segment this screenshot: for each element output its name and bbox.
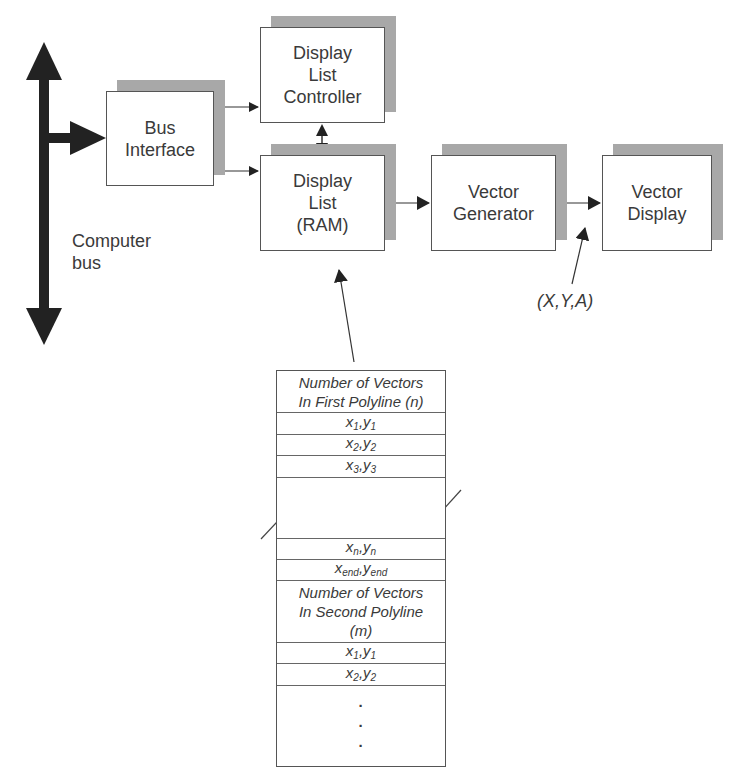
table-row: x3,y3 <box>277 456 445 478</box>
vector-generator-block: Vector Generator <box>431 155 556 251</box>
header-text: Number of Vectors In First Polyline (n) <box>298 373 423 411</box>
display-list-controller-block: Display List Controller <box>260 27 385 123</box>
computer-bus-label: Computer bus <box>72 230 151 274</box>
coord-text: x2,y2 <box>346 663 376 687</box>
computer-bus-arrow <box>26 42 106 345</box>
header-text: Number of Vectors In Second Polyline (m) <box>299 583 424 640</box>
ram-label: Display List (RAM) <box>293 170 352 236</box>
table-row: x1,y1 <box>277 413 445 435</box>
generator-label: Vector Generator <box>453 181 534 225</box>
xya-label: (X,Y,A) <box>537 290 593 312</box>
arrow-table-to-ram <box>339 270 354 362</box>
arrow-xya-pointer <box>572 228 585 284</box>
display-label: Vector Display <box>627 181 686 225</box>
coord-text: x3,y3 <box>346 455 376 479</box>
vector-display-block: Vector Display <box>602 155 712 251</box>
display-list-ram-block: Display List (RAM) <box>260 155 385 251</box>
coord-text: x2,y2 <box>346 433 376 457</box>
table-row-ellipsis: · · · <box>277 686 445 766</box>
ellipsis-dots: · · · <box>359 696 364 756</box>
table-row-header-second: Number of Vectors In Second Polyline (m) <box>277 581 445 643</box>
controller-label: Display List Controller <box>283 42 361 108</box>
coord-text: x1,y1 <box>346 641 376 665</box>
bus-interface-label: Bus Interface <box>125 117 195 161</box>
table-row: xend,yend <box>277 560 445 581</box>
bus-interface-block: Bus Interface <box>106 91 214 186</box>
table-row: x2,y2 <box>277 664 445 686</box>
table-row: x2,y2 <box>277 435 445 456</box>
coord-text: xend,yend <box>335 558 388 582</box>
table-row: x1,y1 <box>277 643 445 664</box>
display-list-memory-table: Number of Vectors In First Polyline (n) … <box>276 370 446 767</box>
coord-text: x1,y1 <box>346 412 376 436</box>
table-row-header-first: Number of Vectors In First Polyline (n) <box>277 371 445 413</box>
table-row: xn,yn <box>277 539 445 560</box>
table-row-gap <box>277 478 445 539</box>
